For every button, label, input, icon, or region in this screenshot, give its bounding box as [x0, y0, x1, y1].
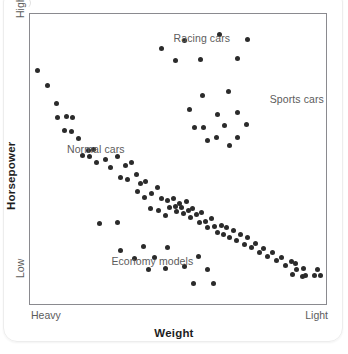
data-point — [242, 242, 247, 247]
data-point — [184, 199, 189, 204]
data-point — [205, 267, 210, 272]
data-point — [219, 223, 224, 228]
data-point — [226, 89, 231, 94]
data-point — [199, 210, 204, 215]
data-point — [191, 281, 196, 286]
data-point — [123, 163, 128, 168]
data-point — [97, 221, 102, 226]
data-point — [192, 125, 197, 130]
series-annotation-label: Economy models — [111, 255, 193, 267]
data-point — [290, 272, 295, 277]
data-point — [159, 46, 164, 51]
data-point — [231, 228, 236, 233]
scatter-plot-figure: High Low Horsepower Heavy Light Weight R… — [0, 0, 348, 354]
data-point — [118, 248, 123, 253]
plot-area: Racing carsSports carsNormal carsEconomy… — [29, 13, 327, 305]
data-point — [235, 135, 240, 140]
data-point — [188, 215, 193, 220]
data-point — [141, 244, 146, 249]
x-axis-tick-heavy: Heavy — [31, 309, 61, 321]
data-point — [221, 232, 226, 237]
data-point — [224, 225, 229, 230]
data-point — [174, 209, 179, 214]
data-point — [62, 128, 67, 133]
data-point — [244, 122, 249, 127]
data-point — [55, 115, 60, 120]
data-point — [209, 216, 214, 221]
data-point — [300, 274, 305, 279]
data-point — [245, 37, 250, 42]
data-point — [171, 196, 176, 201]
data-point — [227, 235, 232, 240]
data-point — [187, 107, 192, 112]
data-point — [165, 245, 170, 250]
data-point — [148, 206, 153, 211]
data-point — [64, 114, 69, 119]
data-point — [200, 93, 205, 98]
data-point — [45, 83, 50, 88]
data-point — [205, 138, 210, 143]
data-point — [212, 224, 217, 229]
data-point — [201, 125, 206, 130]
data-point — [301, 266, 306, 271]
data-point — [283, 263, 288, 268]
data-point — [198, 57, 203, 62]
data-point — [261, 246, 266, 251]
data-point — [54, 101, 59, 106]
data-point — [196, 254, 201, 259]
data-point — [197, 220, 202, 225]
data-point — [94, 160, 99, 165]
data-point — [76, 136, 81, 141]
data-point — [69, 129, 74, 134]
data-point — [245, 235, 250, 240]
data-point — [125, 177, 130, 182]
data-point — [129, 160, 134, 165]
series-annotation-label: Racing cars — [174, 32, 231, 44]
data-point — [146, 267, 151, 272]
data-point — [108, 165, 113, 170]
data-point — [235, 56, 240, 61]
data-point — [134, 172, 139, 177]
data-point — [205, 225, 210, 230]
y-axis-tick-high: High — [14, 0, 26, 18]
data-point — [173, 58, 178, 63]
data-point — [270, 250, 275, 255]
y-axis-tick-low: Low — [14, 259, 26, 278]
data-point — [265, 254, 270, 259]
data-point — [257, 250, 262, 255]
data-point — [315, 267, 320, 272]
data-point — [165, 198, 170, 203]
data-point — [215, 112, 220, 117]
y-axis-title: Horsepower — [5, 142, 17, 210]
data-point — [142, 195, 147, 200]
data-point — [190, 206, 195, 211]
data-point — [159, 196, 164, 201]
data-point — [103, 157, 108, 162]
data-point — [179, 205, 184, 210]
data-point — [203, 219, 208, 224]
data-point — [35, 68, 40, 73]
x-axis-title: Weight — [0, 327, 348, 339]
data-point — [249, 245, 254, 250]
data-point — [293, 261, 298, 266]
series-annotation-label: Sports cars — [270, 93, 324, 105]
data-point — [234, 238, 239, 243]
data-point — [156, 208, 161, 213]
data-point — [214, 135, 219, 140]
data-point — [167, 205, 172, 210]
data-point — [149, 191, 154, 196]
data-point — [138, 181, 143, 186]
data-point — [318, 273, 323, 278]
data-point — [294, 267, 299, 272]
data-point — [163, 213, 168, 218]
data-point — [215, 230, 220, 235]
data-point — [143, 179, 148, 184]
data-point — [227, 143, 232, 148]
data-point — [211, 281, 216, 286]
data-point — [238, 232, 243, 237]
data-point — [135, 189, 140, 194]
data-point — [155, 185, 160, 190]
data-point — [70, 115, 75, 120]
data-point — [118, 175, 123, 180]
data-point — [253, 241, 258, 246]
